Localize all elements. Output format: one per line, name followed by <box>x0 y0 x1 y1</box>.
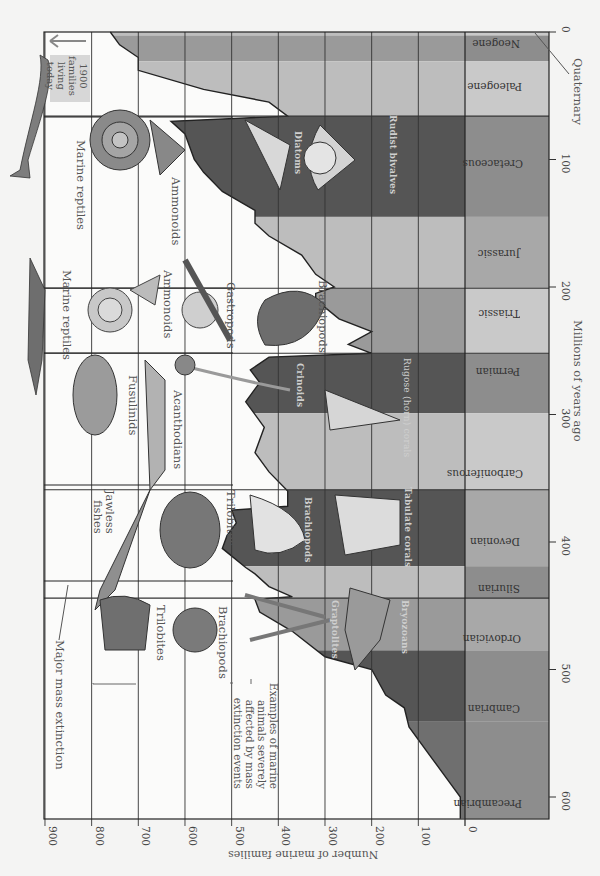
label-k-diatoms: Diatoms <box>293 131 303 174</box>
tabulate-coral-icon <box>335 495 400 555</box>
svg-text:500: 500 <box>234 826 246 846</box>
period-label-cretaceous: Cretaceous <box>463 158 523 170</box>
label-o-graptolites: Graptolites <box>330 600 340 659</box>
label-tr-marine-reptiles: Marine reptiles <box>60 270 74 360</box>
examples-note-line: extinction events <box>232 683 244 789</box>
today-line-2: families <box>67 56 78 96</box>
period-label-devonian: Devonian <box>470 536 520 548</box>
family-ticks: 9008007006005004003002001000 <box>47 826 479 846</box>
label-p-acanthodians: Acanthodians <box>171 390 185 469</box>
examples-note-line: affected by mass <box>244 683 256 789</box>
label-tr-brachiopods: Brachiopods <box>316 280 330 353</box>
period-label-precambrian: Precambrian <box>453 798 522 810</box>
svg-text:600: 600 <box>187 826 199 846</box>
label-d-jawless: Jawless fishes <box>92 490 116 534</box>
period-bar-permian <box>465 353 549 413</box>
today-line-4: today <box>45 56 56 96</box>
label-p-rugose: Rugose (horn) corals <box>402 358 412 457</box>
trilobite-icon <box>160 492 220 568</box>
period-label-neogene: Neogene <box>472 38 520 50</box>
label-d-jawless-1: Jawless <box>104 490 116 534</box>
svg-text:100: 100 <box>420 826 432 846</box>
period-label-cambrian: Cambrian <box>468 703 520 715</box>
svg-text:200: 200 <box>560 281 572 301</box>
svg-text:100: 100 <box>560 154 572 174</box>
examples-note-line: Examples of marine <box>268 683 280 789</box>
period-label-carboniferous: Carboniferous <box>447 468 523 480</box>
period-label-paleogene: Paleogene <box>467 81 522 93</box>
label-p-fusulinids: Fusulinids <box>126 375 140 435</box>
today-line-1: 1900 <box>78 56 89 96</box>
svg-text:900: 900 <box>47 826 59 846</box>
label-d-tabulate: Tabulate corals <box>403 487 413 567</box>
svg-text:600: 600 <box>560 791 572 811</box>
label-k-ammonoids: Ammonoids <box>169 177 183 245</box>
label-o-bryozoans: Bryozoans <box>400 600 410 654</box>
label-o-brachiopods: Brachiopods <box>216 606 230 679</box>
svg-text:0: 0 <box>560 26 572 33</box>
label-k-marine-reptiles: Marine reptiles <box>74 140 88 230</box>
svg-text:400: 400 <box>560 536 572 556</box>
svg-text:200: 200 <box>374 826 386 846</box>
period-bar-devonian <box>465 490 549 566</box>
period-label-ordovician: Ordovician <box>463 633 521 645</box>
period-label-jurassic: Jurassic <box>478 248 520 260</box>
label-k-rudist: Rudist bivalves <box>388 115 398 194</box>
label-o-trilobites: Trilobites <box>154 605 168 661</box>
brachiopod-icon <box>173 608 217 652</box>
fusulinid-icon <box>73 355 117 435</box>
svg-text:300: 300 <box>327 826 339 846</box>
label-tr-ammonoids: Ammonoids <box>161 270 175 338</box>
label-tr-gastropods: Gastropods <box>224 282 238 349</box>
major-extinction-label: Major mass extinction <box>53 640 67 770</box>
today-line-3: living <box>56 56 67 96</box>
examples-note-line: animals severely <box>256 683 268 789</box>
examples-note: Examples of marine animals severely affe… <box>232 683 280 789</box>
label-d-trilobites: Trilobites <box>224 490 238 546</box>
label-d-brachiopods: Brachiopods <box>303 497 313 562</box>
svg-text:700: 700 <box>140 826 152 846</box>
svg-text:400: 400 <box>280 826 292 846</box>
period-label-permian: Permian <box>476 366 520 378</box>
ma-ticks: 0100200300400500600 <box>549 26 572 811</box>
today-label: 1900 families living today <box>45 56 89 96</box>
quaternary-label: Quaternary <box>571 58 585 125</box>
x-axis-label: Millions of years ago <box>571 320 585 442</box>
trilobite-icon <box>100 596 150 650</box>
period-bar-triassic <box>465 288 549 353</box>
svg-text:500: 500 <box>560 664 572 684</box>
period-label-triassic: Triassic <box>478 308 520 320</box>
period-label-silurian: Silurian <box>478 583 520 595</box>
label-p-crinoids: Crinoids <box>295 363 305 407</box>
svg-text:0: 0 <box>467 826 479 833</box>
svg-text:800: 800 <box>94 826 106 846</box>
y-axis-label: Number of marine families <box>228 848 378 861</box>
marine-reptile-icon <box>28 258 45 395</box>
